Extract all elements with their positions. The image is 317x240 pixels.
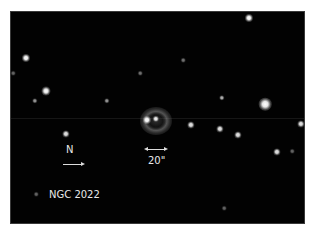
star <box>187 121 194 128</box>
star <box>273 148 280 155</box>
star <box>22 54 30 62</box>
astronomy-figure: N 20" NGC 2022 <box>0 0 317 240</box>
star <box>219 95 224 100</box>
north-arrow-icon <box>63 164 83 165</box>
star <box>11 71 16 76</box>
star <box>42 87 51 96</box>
star <box>216 125 223 132</box>
object-name-label: NGC 2022 <box>49 189 100 200</box>
north-label: N <box>66 144 73 155</box>
sky-image: N 20" NGC 2022 <box>10 11 305 224</box>
scale-bar-icon <box>146 149 166 150</box>
star <box>181 58 186 63</box>
star <box>222 206 227 211</box>
scale-bar-label: 20" <box>148 155 165 166</box>
star <box>259 98 272 111</box>
star <box>138 71 143 76</box>
star <box>234 131 241 138</box>
star <box>297 120 304 127</box>
star <box>32 98 37 103</box>
star <box>34 192 39 197</box>
star <box>62 130 69 137</box>
star <box>290 149 295 154</box>
star <box>245 14 253 22</box>
star <box>104 98 109 103</box>
